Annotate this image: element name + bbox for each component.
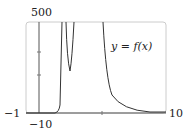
x-min-label: −10 — [29, 119, 52, 130]
plot-frame — [26, 22, 166, 113]
curve-right-branch — [103, 22, 166, 112]
curve-middle-branch — [66, 22, 74, 71]
x-max-label: 10 — [169, 108, 183, 119]
curve-label: y = f(x) — [111, 41, 152, 52]
y-max-label: 500 — [31, 7, 52, 18]
y-min-label: −1 — [4, 108, 20, 119]
curve-left-branch — [26, 22, 62, 113]
chart-canvas — [0, 0, 187, 137]
